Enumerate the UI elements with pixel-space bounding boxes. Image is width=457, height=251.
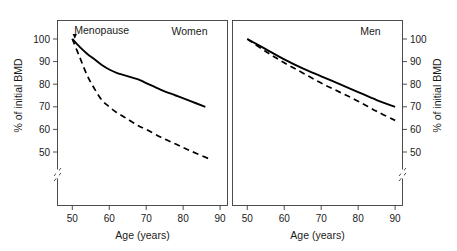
men-panel-title: Men bbox=[360, 25, 381, 37]
women-panel-xaxis-title: Age (years) bbox=[115, 229, 169, 241]
women-panel-title: Women bbox=[172, 25, 208, 37]
women-panel-yaxis-title: % of initial BMD bbox=[12, 58, 24, 133]
men-panel-ytick-label: 90 bbox=[410, 56, 422, 67]
men-panel-xaxis-title: Age (years) bbox=[290, 229, 344, 241]
men-panel-xtick-label: 60 bbox=[279, 213, 291, 224]
men-panel-ytick-label: 50 bbox=[410, 147, 422, 158]
women-panel-xtick-label: 50 bbox=[67, 213, 79, 224]
women-panel-frame bbox=[58, 21, 228, 206]
women-panel-xtick-label: 60 bbox=[104, 213, 116, 224]
solid-curve-men bbox=[247, 39, 395, 107]
women-panel-xtick-label: 80 bbox=[178, 213, 190, 224]
women-panel-ytick-label: 50 bbox=[39, 147, 51, 158]
men-panel-ytick-label: 70 bbox=[410, 101, 422, 112]
women-panel-ytick-label: 70 bbox=[39, 101, 51, 112]
chart-svg: 50607080901005060708090Age (years)% of i… bbox=[0, 0, 457, 251]
women-panel-annotation-label: Menopause bbox=[74, 24, 129, 36]
men-panel-yaxis-title: % of initial BMD bbox=[431, 58, 443, 133]
men-panel-ytick-label: 60 bbox=[410, 124, 422, 135]
men-panel-xtick-label: 80 bbox=[353, 213, 365, 224]
men-panel-xtick-label: 90 bbox=[390, 213, 402, 224]
women-panel-annotation-arrow-head bbox=[73, 34, 77, 39]
women-panel-ytick-label: 80 bbox=[39, 79, 51, 90]
men-panel-ytick-label: 100 bbox=[410, 34, 427, 45]
men-panel: 50607080901005060708090Age (years)% of i… bbox=[233, 21, 443, 241]
women-panel-xtick-label: 70 bbox=[141, 213, 153, 224]
men-panel-frame bbox=[233, 21, 403, 206]
bmd-age-figure: 50607080901005060708090Age (years)% of i… bbox=[0, 0, 457, 251]
women-panel: 50607080901005060708090Age (years)% of i… bbox=[12, 21, 228, 241]
women-panel-ytick-label: 90 bbox=[39, 56, 51, 67]
men-panel-xtick-label: 70 bbox=[316, 213, 328, 224]
men-panel-xtick-label: 50 bbox=[242, 213, 254, 224]
women-panel-axis-break-gap bbox=[56, 170, 59, 179]
women-panel-ytick-label: 100 bbox=[33, 34, 50, 45]
solid-curve-women bbox=[72, 39, 205, 107]
men-panel-axis-break-gap bbox=[401, 170, 404, 179]
women-panel-ytick-label: 60 bbox=[39, 124, 51, 135]
women-panel-xtick-label: 90 bbox=[215, 213, 227, 224]
men-panel-ytick-label: 80 bbox=[410, 79, 422, 90]
